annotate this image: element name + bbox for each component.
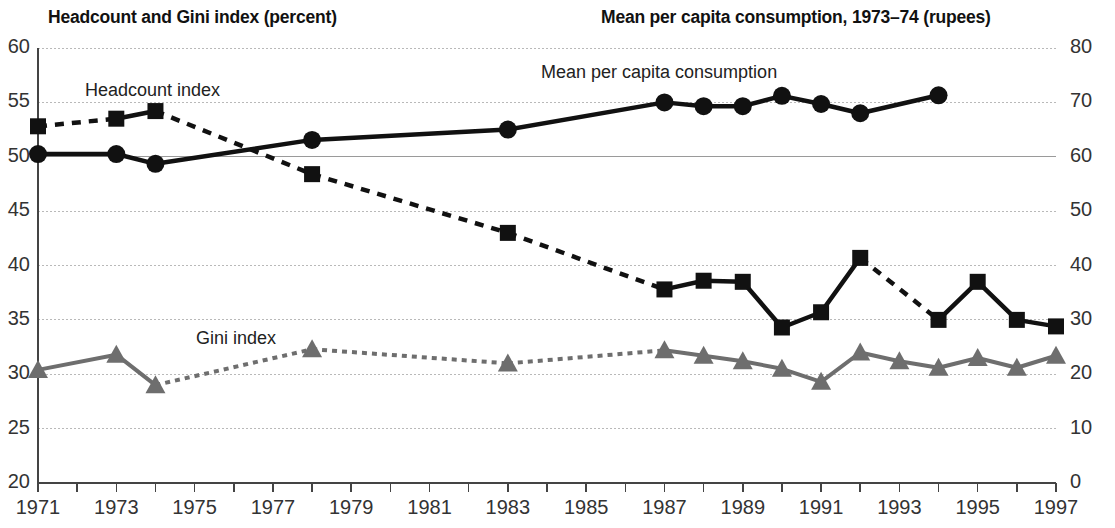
right-tick-50: 50 — [1070, 198, 1104, 221]
x-tick-1977: 1977 — [243, 496, 303, 519]
marker-square — [30, 118, 46, 134]
right-tick-70: 70 — [1070, 89, 1104, 112]
marker-square — [1048, 318, 1064, 334]
series-gini-index — [28, 339, 1066, 393]
marker-circle — [930, 86, 948, 104]
marker-circle — [499, 121, 517, 139]
x-axis-ticks — [38, 483, 1056, 492]
right-tick-0: 0 — [1070, 470, 1104, 493]
chart-container: Headcount and Gini index (percent) Mean … — [0, 0, 1115, 528]
data-series — [28, 86, 1066, 393]
right-tick-40: 40 — [1070, 253, 1104, 276]
marker-square — [656, 281, 672, 297]
x-tick-1991: 1991 — [791, 496, 851, 519]
marker-triangle — [302, 339, 322, 357]
left-tick-60: 60 — [0, 35, 30, 58]
x-tick-1981: 1981 — [400, 496, 460, 519]
left-tick-25: 25 — [0, 416, 30, 439]
marker-triangle — [968, 348, 988, 366]
x-tick-1975: 1975 — [165, 496, 225, 519]
right-tick-20: 20 — [1070, 361, 1104, 384]
left-tick-30: 30 — [0, 361, 30, 384]
marker-triangle — [850, 343, 870, 361]
x-tick-1979: 1979 — [321, 496, 381, 519]
right-tick-30: 30 — [1070, 307, 1104, 330]
marker-square — [1009, 312, 1025, 328]
marker-circle — [107, 145, 125, 163]
left-tick-40: 40 — [0, 253, 30, 276]
marker-square — [108, 111, 124, 127]
marker-square — [970, 274, 986, 290]
marker-square — [735, 274, 751, 290]
marker-square — [304, 166, 320, 182]
marker-circle — [655, 93, 673, 111]
right-tick-80: 80 — [1070, 35, 1104, 58]
marker-circle — [812, 95, 830, 113]
marker-square — [500, 225, 516, 241]
x-tick-1995: 1995 — [948, 496, 1008, 519]
right-tick-60: 60 — [1070, 144, 1104, 167]
marker-circle — [695, 97, 713, 115]
marker-circle — [851, 104, 869, 122]
left-tick-45: 45 — [0, 198, 30, 221]
series-label-gini: Gini index — [196, 328, 276, 349]
x-tick-1971: 1971 — [8, 496, 68, 519]
series-headcount-index — [30, 103, 1064, 335]
marker-square — [774, 319, 790, 335]
marker-square — [813, 304, 829, 320]
left-tick-20: 20 — [0, 470, 30, 493]
marker-circle — [303, 131, 321, 149]
marker-circle — [146, 155, 164, 173]
left-tick-50: 50 — [0, 144, 30, 167]
marker-triangle — [1046, 346, 1066, 364]
series-label-consumption: Mean per capita consumption — [541, 62, 777, 83]
series-label-headcount: Headcount index — [85, 80, 220, 101]
marker-triangle — [498, 353, 518, 371]
marker-triangle — [106, 345, 126, 363]
marker-circle — [773, 87, 791, 105]
marker-square — [696, 273, 712, 289]
x-tick-1987: 1987 — [634, 496, 694, 519]
marker-square — [931, 312, 947, 328]
x-tick-1985: 1985 — [556, 496, 616, 519]
marker-square — [147, 103, 163, 119]
marker-square — [852, 250, 868, 266]
x-tick-1983: 1983 — [478, 496, 538, 519]
marker-circle — [734, 97, 752, 115]
gridlines — [38, 48, 1056, 483]
left-tick-35: 35 — [0, 307, 30, 330]
x-tick-1997: 1997 — [1026, 496, 1086, 519]
right-tick-10: 10 — [1070, 416, 1104, 439]
x-tick-1973: 1973 — [86, 496, 146, 519]
marker-circle — [29, 145, 47, 163]
left-tick-55: 55 — [0, 89, 30, 112]
x-tick-1989: 1989 — [713, 496, 773, 519]
x-tick-1993: 1993 — [869, 496, 929, 519]
